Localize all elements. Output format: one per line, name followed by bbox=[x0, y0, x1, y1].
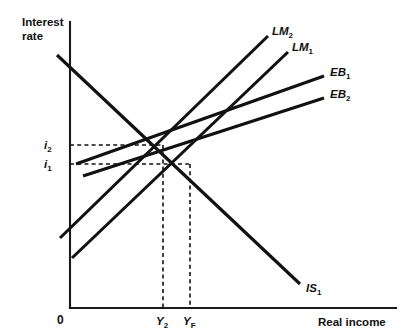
curve-label-LM2: LM2 bbox=[272, 25, 294, 40]
y-axis-title-line1: Interest bbox=[22, 16, 64, 28]
curve-EB1 bbox=[76, 76, 324, 164]
origin-label: 0 bbox=[57, 313, 64, 327]
y-axis-title-line2: rate bbox=[22, 30, 43, 42]
curve-EB2 bbox=[83, 98, 324, 176]
curve-LM2 bbox=[60, 36, 268, 238]
curve-label-EB2: EB2 bbox=[330, 88, 351, 103]
x-tick-label-YF: YF bbox=[183, 315, 196, 330]
y-tick-labels-group: i2 i1 bbox=[44, 139, 52, 173]
y-tick-label-i1: i1 bbox=[44, 158, 52, 173]
x-tick-labels-group: Y2 YF bbox=[156, 315, 196, 330]
curve-labels-group: LM2 LM1 EB1 EB2 IS1 bbox=[272, 25, 351, 297]
curve-IS1 bbox=[57, 55, 300, 284]
diagram-canvas: LM2 LM1 EB1 EB2 IS1 i2 i1 bbox=[0, 0, 404, 335]
isml-eb-figure: LM2 LM1 EB1 EB2 IS1 i2 i1 bbox=[0, 0, 404, 335]
y-tick-label-i2: i2 bbox=[44, 139, 52, 154]
curve-label-LM1: LM1 bbox=[292, 41, 314, 56]
x-axis-title: Real income bbox=[318, 316, 386, 328]
curve-label-IS1: IS1 bbox=[306, 282, 322, 297]
curve-label-EB1: EB1 bbox=[330, 66, 351, 81]
x-tick-label-Y2: Y2 bbox=[156, 315, 169, 330]
